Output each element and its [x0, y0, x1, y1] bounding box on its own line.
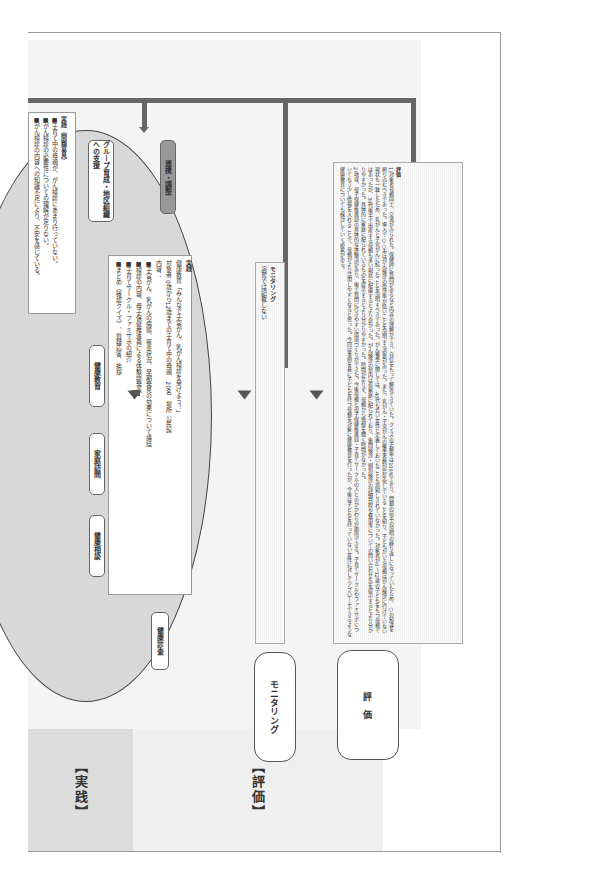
health-consultation-button[interactable]: 健康相談: [89, 515, 105, 577]
arrow-right-icon: [310, 391, 324, 400]
problem-item: ■がん検診の必要性についての理解が足りない。: [41, 116, 50, 306]
group-support-button[interactable]: グループ育成・地区組織への支援: [88, 140, 114, 222]
health-checkup-button[interactable]: 健康診査: [151, 612, 169, 670]
arrow-down-icon: [139, 127, 149, 133]
evaluation-panel: 評価 1)対象者母親同士、交流がみられた。保健師に質問があるなど内容の理解ができ…: [333, 162, 463, 644]
practice-box: 実践 健康教育「みんなで子宮がん、乳がん検診を受けよう！」 対象者 0歳から12…: [108, 255, 192, 595]
section-label-evaluation: 【評価】: [249, 760, 268, 820]
evaluation-paragraph-1: 1)対象者母親同士、交流がみられた。保健師に質問があるなど内容の理解ができ、自信…: [359, 167, 394, 637]
practice-line: ■子育てサークル・ファミサポの紹介: [123, 260, 133, 590]
monitoring-box: モニタリング: [254, 652, 296, 762]
monitoring-header: モニタリング: [268, 266, 277, 636]
practice-title: 実践: [183, 260, 193, 590]
coordination-button[interactable]: 連携・調整: [160, 140, 176, 214]
practice-line: 内容：: [153, 260, 163, 590]
problem-item: ■子育て中の母親が、がん検診にあまり行っていない。: [50, 116, 59, 306]
section-label-practice: 【実践】: [71, 760, 90, 820]
monitoring-panel: モニタリング 演習では記載しない: [255, 262, 285, 644]
practice-line: ■子宮がん、乳がんの病態、罹患状況、早期発見の効果について講話: [143, 260, 153, 590]
arrow-right-icon: [238, 391, 252, 400]
monitoring-note: 演習では記載しない: [259, 266, 268, 636]
connector-drop-1: [142, 98, 147, 128]
practice-line: ■まとめ（確認クイズ）、質疑応答、挨拶: [113, 260, 123, 590]
practice-line: 健康教育「みんなで子宮がん、乳がん検診を受けよう！」: [173, 260, 183, 590]
bottom-divider: [28, 851, 500, 852]
problem-item: ■がん検診の内容への知識不足により、不安を感じている。: [32, 116, 41, 306]
practice-line: ■検診の内容、母子保健推進員による体験談発表: [133, 260, 143, 590]
section-band-practice: 【実践】: [28, 729, 133, 851]
evaluation-paragraph-2: 2)地域、母子保健推進員の具体的な体験談があり、後で質問に行きやすい環境づくりが…: [338, 167, 359, 637]
home-visit-button[interactable]: 家庭訪問: [89, 433, 105, 495]
health-education-button[interactable]: 健康教育: [89, 345, 105, 407]
arrow-right-icon: [128, 391, 142, 400]
evaluation-title: 評価: [394, 167, 401, 637]
practice-line: 対象者 0歳から12歳までの子育て中の母親 20名 場所 公民館: [163, 260, 173, 590]
problem-box: 実践（問題意見） ■子育て中の母親が、がん検診にあまり行っていない。 ■がん検診…: [28, 112, 76, 314]
problem-title: 実践（問題意見）: [59, 116, 68, 306]
connector-bar: [28, 98, 416, 103]
evaluation-box: 評 価: [337, 650, 399, 760]
